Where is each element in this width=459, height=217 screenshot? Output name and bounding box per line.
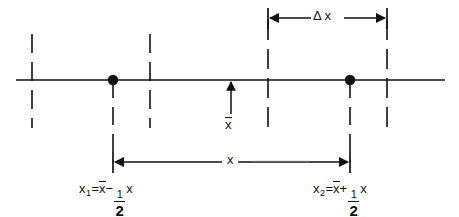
x1-equals: =	[92, 181, 100, 196]
x1-operator: −	[106, 181, 114, 196]
x1-fraction-denominator: 2	[116, 202, 124, 217]
x1-fraction: 12	[114, 189, 125, 217]
x2-equation-label: x2=x+12x	[313, 181, 367, 217]
x2-equals: =	[326, 181, 334, 196]
x1-mean-glyph: x	[99, 181, 106, 195]
x2-fraction-denominator: 2	[350, 202, 358, 217]
point-dot-x2	[345, 75, 355, 85]
x2-variable: x	[313, 181, 320, 196]
x1-variable: x	[79, 181, 86, 196]
diagram-canvas	[0, 0, 459, 217]
x-bar-label: x	[225, 117, 232, 131]
x1-equation-label: x1=x−12x	[79, 181, 133, 217]
x-dimension-label: x	[227, 153, 234, 166]
x1-fraction-numerator: 1	[117, 189, 123, 201]
x2-fraction-numerator: 1	[351, 189, 357, 201]
x2-fraction: 12	[348, 189, 359, 217]
x2-trailing-variable: x	[360, 181, 367, 196]
delta-x-label: Δ x	[313, 9, 331, 22]
number-line-interval-diagram: Δ x x x x1=x−12x x2=x+12x	[0, 0, 459, 217]
x1-trailing-variable: x	[126, 181, 133, 196]
x2-mean-glyph: x	[333, 181, 340, 195]
x-bar-glyph: x	[225, 117, 232, 131]
x2-operator: +	[340, 181, 348, 196]
point-dot-x1	[108, 75, 118, 85]
